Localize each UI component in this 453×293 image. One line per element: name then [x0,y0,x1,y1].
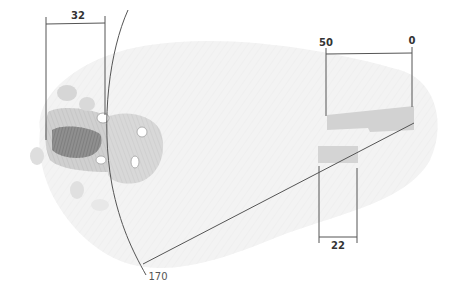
dark-core-hatch [52,127,102,158]
dim-32-line [46,23,105,24]
dim-label-170: 170 [148,271,167,282]
blob-upper [57,85,77,101]
dim-label-0: 0 [409,35,416,46]
dim-label-22: 22 [331,240,345,251]
foramen-4 [131,156,139,168]
head-sketch [30,41,438,268]
dim-label-32: 32 [71,10,85,21]
foramen-3 [96,156,106,164]
foramen-2 [137,127,147,137]
head-measurement-diagram: 32 50 0 22 170 [0,0,453,293]
blob-upper-2 [79,97,95,111]
dim-50-0-line [326,53,412,54]
blob-left [30,147,44,165]
lower-gray-band [318,146,358,163]
blob-lower [70,181,84,199]
dim-label-50: 50 [319,37,333,48]
blob-lower-2 [91,199,109,211]
